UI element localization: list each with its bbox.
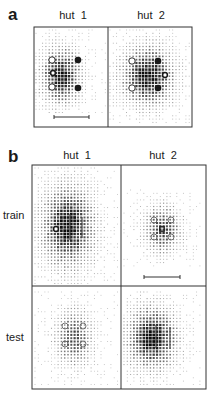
- open-circle-marker: [129, 58, 135, 64]
- filled-circle-marker: [75, 85, 82, 92]
- figure-canvas: [0, 0, 214, 394]
- open-circle-marker: [49, 84, 55, 90]
- open-circle-marker: [163, 73, 168, 78]
- b-test-hut2-cloud: [123, 292, 200, 385]
- open-circle-marker: [49, 57, 55, 63]
- open-circle-marker: [51, 71, 56, 76]
- filled-circle-marker: [155, 85, 162, 92]
- a-hut1-cloud: [35, 30, 105, 114]
- b-test-hut1-cloud: [35, 292, 118, 385]
- b-train-hut1-cloud: [34, 167, 118, 284]
- b-train-hut2-cloud: [124, 190, 201, 267]
- filled-circle-marker: [75, 57, 82, 64]
- filled-circle-marker: [155, 58, 162, 65]
- a-hut2-cloud: [109, 30, 189, 123]
- open-circle-marker: [129, 85, 135, 91]
- dot-density-clouds: [34, 30, 200, 385]
- open-circle-marker: [80, 323, 86, 329]
- panel-a-frame: [34, 27, 192, 127]
- open-circle-marker: [54, 227, 59, 232]
